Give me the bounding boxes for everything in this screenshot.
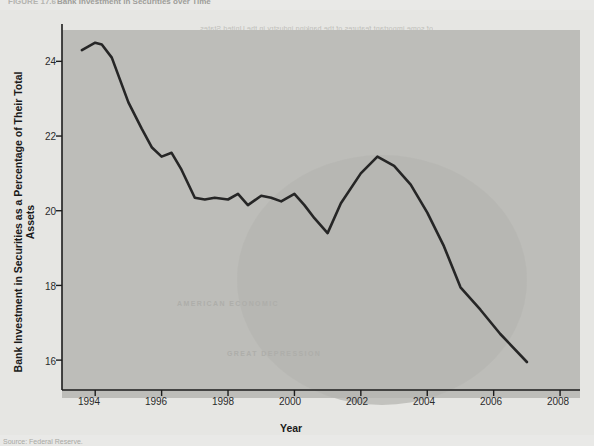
figure-source: Source: Federal Reserve. — [3, 438, 83, 446]
x-tick-label: 2002 — [337, 396, 377, 407]
x-tick-label: 1994 — [69, 396, 109, 407]
line-chart — [0, 10, 594, 435]
x-tick-label: 1998 — [203, 396, 243, 407]
y-tick-marks — [56, 61, 62, 360]
data-series-line — [82, 43, 527, 362]
figure-number: FIGURE 17.6 — [8, 0, 56, 5]
figure-title: Bank Investment in Securities over Time — [57, 0, 211, 5]
figure-page: FIGURE 17.6 Bank Investment in Securitie… — [0, 0, 594, 446]
x-tick-label: 2004 — [404, 396, 444, 407]
x-tick-label: 2006 — [471, 396, 511, 407]
x-tick-label: 2000 — [270, 396, 310, 407]
x-axis-title: Year — [280, 422, 302, 434]
x-tick-label: 2008 — [538, 396, 578, 407]
y-axis-title: Bank Investment in Securities as a Perce… — [12, 57, 36, 387]
figure-panel: of some important features of the bankin… — [0, 10, 594, 435]
x-tick-label: 1996 — [136, 396, 176, 407]
